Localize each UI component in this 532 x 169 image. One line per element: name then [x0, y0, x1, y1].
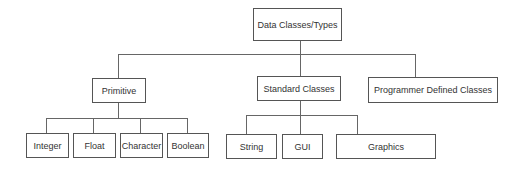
node-root: Data Classes/Types	[253, 8, 342, 41]
connector-integer	[46, 118, 47, 133]
node-boolean: Boolean	[167, 133, 209, 158]
connector-level1-bar	[118, 54, 416, 55]
node-programmer-defined-classes: Programmer Defined Classes	[368, 77, 498, 103]
connector-programmer	[415, 54, 416, 77]
connector-standard-bar	[246, 115, 358, 116]
node-gui: GUI	[282, 134, 323, 159]
connector-graphics	[357, 115, 358, 134]
node-integer: Integer	[26, 133, 69, 158]
connector-gui	[300, 115, 301, 134]
connector-string	[246, 115, 247, 134]
connector-primitive	[118, 54, 119, 78]
connector-boolean	[187, 118, 188, 133]
connector-character	[140, 118, 141, 133]
node-float: Float	[73, 133, 116, 158]
connector-primitive-bar	[46, 118, 188, 119]
connector-standard-stem	[300, 100, 301, 116]
node-character: Character	[120, 133, 163, 158]
node-primitive: Primitive	[92, 78, 146, 103]
connector-root-stem	[300, 40, 301, 55]
connector-standard	[300, 54, 301, 76]
node-standard-classes: Standard Classes	[257, 76, 341, 101]
node-string: String	[226, 134, 277, 159]
connector-float	[93, 118, 94, 133]
node-graphics: Graphics	[336, 134, 436, 159]
connector-primitive-stem	[118, 102, 119, 118]
